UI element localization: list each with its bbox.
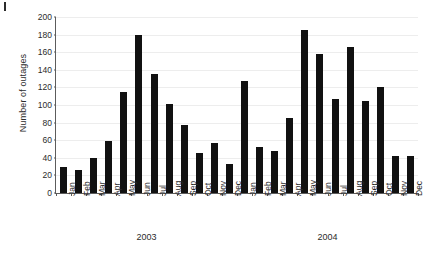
y-tick-label: 120 [38,82,52,92]
plot-area: 020406080100120140160180200 [56,17,418,193]
x-tick-label: Dec [414,181,424,196]
x-tick-label: Sep [369,181,379,196]
group-label: 2004 [317,232,337,242]
x-tick-label: Mar [97,181,107,196]
x-tick-label: Nov [399,181,409,196]
bar [166,104,173,193]
x-tick-label: Jun [323,182,333,196]
bar [362,101,369,193]
y-tick-label: 160 [38,47,52,57]
y-tick-label: 20 [43,170,52,180]
x-tick-label: Jan [248,182,258,196]
bar [377,87,384,193]
x-tick-label: Nov [218,181,228,196]
x-tick-label: Jun [142,182,152,196]
y-tick-label: 80 [43,118,52,128]
x-tick-label: Mar [278,181,288,196]
bar-series [56,17,418,193]
figure: Number of outages 0204060801001201401601… [0,0,430,255]
x-tick-label: May [127,180,137,196]
bar [347,47,354,193]
x-tick-label: Feb [263,181,273,196]
bar [301,30,308,193]
x-tick-label: Jan [67,182,77,196]
bar [120,92,127,193]
x-tick-label: Aug [173,181,183,196]
y-tick-label: 0 [47,188,52,198]
x-tick-label: Sep [188,181,198,196]
y-tick-label: 60 [43,135,52,145]
x-axis-labels: JanFebMarAprMayJunJulAugSepOctNovDecJanF… [56,196,418,226]
x-tick-label: Aug [354,181,364,196]
x-tick-label: Jul [339,185,349,196]
corner-artifact-mark [4,2,6,11]
y-axis-title: Number of outages [18,0,34,188]
x-tick-label: Apr [112,183,122,196]
bar [332,99,339,193]
x-tick-label: Oct [203,183,213,196]
x-tick-label: Oct [384,183,394,196]
x-tick-label: Jul [158,185,168,196]
x-tick-label: Dec [233,181,243,196]
y-tick-label: 100 [38,100,52,110]
x-axis-group-labels: 20032004 [56,232,418,248]
bar [316,54,323,193]
x-tick-label: May [308,180,318,196]
y-tick-label: 180 [38,30,52,40]
x-tick-label: Apr [293,183,303,196]
y-tick-label: 200 [38,12,52,22]
bar [151,74,158,193]
y-tick-label: 40 [43,153,52,163]
bar [135,35,142,193]
group-label: 2003 [136,232,156,242]
bar [60,167,67,193]
bar [241,81,248,193]
x-tick-label: Feb [82,181,92,196]
y-tick-label: 140 [38,65,52,75]
